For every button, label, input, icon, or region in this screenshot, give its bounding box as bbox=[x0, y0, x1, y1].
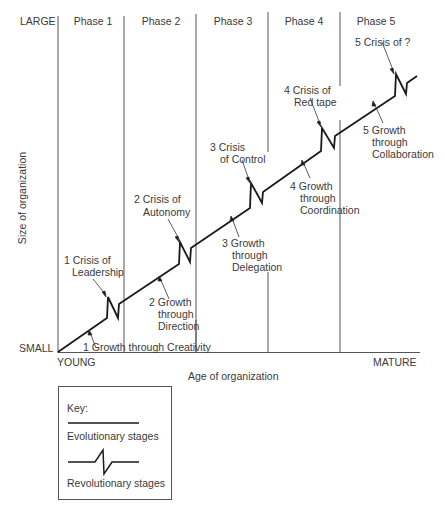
crisis-4-label-line1: 4 Crisis of bbox=[284, 84, 331, 96]
growth-2-label-line2: through bbox=[158, 308, 194, 320]
growth-3-label-line1: 3 Growth bbox=[222, 237, 265, 249]
legend-title: Key: bbox=[67, 402, 88, 414]
phase-4-label: Phase 4 bbox=[269, 15, 339, 27]
phase-1-label: Phase 1 bbox=[62, 15, 124, 27]
x-axis-title: Age of organization bbox=[188, 370, 278, 382]
growth-4-label-line3: Coordination bbox=[300, 204, 360, 216]
y-axis-min-label: SMALL bbox=[19, 342, 53, 354]
growth-arrows bbox=[88, 101, 383, 348]
crisis-1-label-line2: Leadership bbox=[72, 266, 124, 278]
growth-2-label-line3: Direction bbox=[158, 320, 199, 332]
crisis-3-label-line1: 3 Crisis bbox=[210, 141, 245, 153]
phase-5-label: Phase 5 bbox=[341, 15, 411, 27]
growth-5-label-line1: 5 Growth bbox=[363, 124, 406, 136]
growth-5-label-line2: through bbox=[372, 136, 408, 148]
y-axis-max-label: LARGE bbox=[20, 15, 56, 27]
legend-revolutionary-label: Revolutionary stages bbox=[67, 477, 165, 489]
growth-2-label-line1: 2 Growth bbox=[149, 296, 192, 308]
phase-2-label: Phase 2 bbox=[126, 15, 196, 27]
growth-5-label-line3: Collaboration bbox=[372, 148, 434, 160]
crisis-2-label-line1: 2 Crisis of bbox=[134, 193, 181, 205]
growth-3-label-line3: Delegation bbox=[232, 261, 282, 273]
growth-curve bbox=[58, 74, 417, 352]
growth-4-label-line1: 4 Growth bbox=[290, 180, 333, 192]
crisis-4-label-line2: Red tape bbox=[294, 96, 337, 108]
growth-4-label-line2: through bbox=[300, 192, 336, 204]
y-axis-title: Size of organization bbox=[16, 138, 28, 258]
phase-3-label: Phase 3 bbox=[198, 15, 268, 27]
crisis-5-label: 5 Crisis of ? bbox=[355, 36, 410, 48]
x-axis-max-label: MATURE bbox=[373, 356, 417, 368]
crisis-2-label-line2: Autonomy bbox=[143, 206, 190, 218]
crisis-1-label-line1: 1 Crisis of bbox=[64, 254, 111, 266]
x-axis-min-label: YOUNG bbox=[57, 356, 96, 368]
growth-3-label-line2: through bbox=[232, 249, 268, 261]
legend-evolutionary-label: Evolutionary stages bbox=[67, 430, 159, 442]
growth-1-label: 1 Growth through Creativity bbox=[83, 341, 211, 353]
crisis-3-label-line2: of Control bbox=[220, 153, 266, 165]
